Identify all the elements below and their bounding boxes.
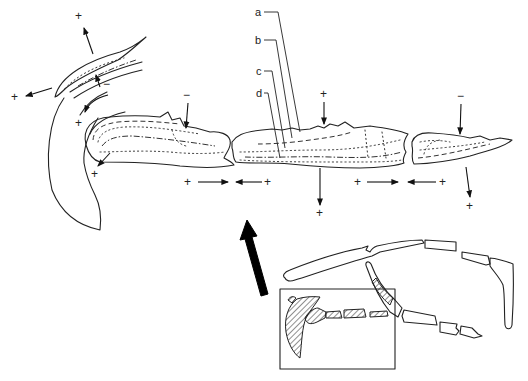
plus-sign: + xyxy=(439,175,446,189)
plus-sign: + xyxy=(75,9,82,23)
letter-labels: a b c d xyxy=(255,6,300,158)
plus-sign: + xyxy=(354,175,361,189)
bone-diagram: a b c d + + − + + − + − + + xyxy=(0,0,528,381)
minus-sign: − xyxy=(183,88,190,102)
plus-sign: + xyxy=(11,90,18,104)
skeleton-overview xyxy=(280,240,513,369)
direction-arrow-icon xyxy=(240,220,268,296)
main-section xyxy=(85,112,512,168)
plus-sign: + xyxy=(91,167,98,181)
label-b: b xyxy=(255,34,261,46)
plus-sign: + xyxy=(264,175,271,189)
plus-sign: + xyxy=(320,87,327,101)
hook-body xyxy=(48,92,125,230)
minus-sign: − xyxy=(457,89,464,103)
plus-sign: + xyxy=(316,206,323,220)
label-d: d xyxy=(256,87,262,99)
plus-sign: + xyxy=(184,175,191,189)
plus-sign: + xyxy=(466,199,473,213)
minus-sign: − xyxy=(103,77,110,91)
label-a: a xyxy=(255,6,262,18)
upper-process xyxy=(55,37,146,98)
plus-sign: + xyxy=(75,116,82,130)
label-c: c xyxy=(256,65,262,77)
